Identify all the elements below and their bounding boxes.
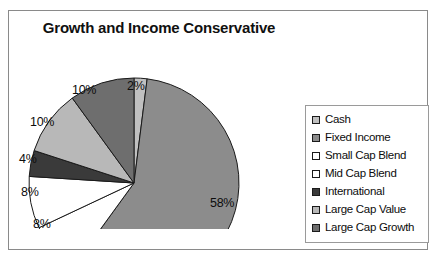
legend-item-label: Fixed Income	[325, 132, 390, 144]
slice-label-large-cap-value: 10%	[30, 115, 54, 129]
legend-item-label: International	[325, 186, 384, 198]
legend-item[interactable]: Large Cap Growth	[312, 219, 424, 237]
slice-label-large-cap-growth: 10%	[72, 83, 96, 97]
legend-item[interactable]: Cash	[312, 111, 424, 129]
legend-swatch-icon	[312, 206, 320, 214]
slice-label-mid-cap-blend: 8%	[21, 185, 38, 199]
legend-item[interactable]: Small Cap Blend	[312, 147, 424, 165]
legend-item-label: Cash	[325, 114, 351, 126]
chart-legend: CashFixed IncomeSmall Cap BlendMid Cap B…	[305, 105, 429, 243]
slice-label-international: 4%	[19, 152, 36, 166]
legend-swatch-icon	[312, 152, 320, 160]
legend-item-label: Large Cap Growth	[325, 222, 414, 234]
legend-swatch-icon	[312, 134, 320, 142]
legend-item[interactable]: International	[312, 183, 424, 201]
legend-swatch-icon	[312, 188, 320, 196]
legend-swatch-icon	[312, 116, 320, 124]
slice-label-fixed-income: 58%	[210, 196, 234, 210]
legend-item[interactable]: Large Cap Value	[312, 201, 424, 219]
legend-item-label: Large Cap Value	[325, 204, 406, 216]
legend-item-label: Small Cap Blend	[325, 150, 406, 162]
pie-plot-area: 2% 10% 10% 4% 8% 8% 58%	[9, 11, 309, 251]
slice-label-cash: 2%	[127, 79, 144, 93]
legend-item-label: Mid Cap Blend	[325, 168, 397, 180]
legend-item[interactable]: Mid Cap Blend	[312, 165, 424, 183]
slice-label-small-cap-blend: 8%	[33, 217, 50, 231]
pie-slice-group	[29, 78, 239, 229]
chart-frame: Growth and Income Conservative 2% 10% 10…	[8, 10, 428, 250]
legend-swatch-icon	[312, 170, 320, 178]
legend-swatch-icon	[312, 224, 320, 232]
legend-item[interactable]: Fixed Income	[312, 129, 424, 147]
